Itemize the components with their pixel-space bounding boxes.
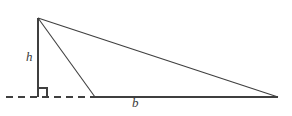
figure-canvas — [0, 0, 292, 116]
triangle-hypotenuse-line — [38, 18, 278, 97]
geometry-figure: h b — [0, 0, 292, 116]
base-label: b — [132, 96, 139, 109]
triangle-left-side-line — [38, 18, 95, 97]
right-angle-marker-icon — [38, 88, 47, 97]
height-label: h — [26, 50, 33, 63]
